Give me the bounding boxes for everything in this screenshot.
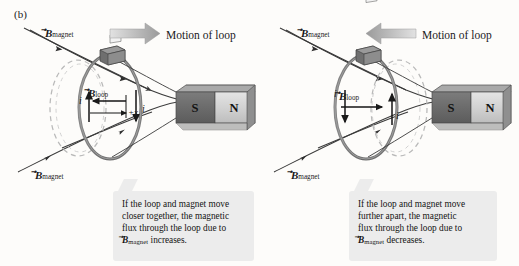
caption-line-2: further apart, the magnetic — [358, 210, 489, 222]
current-label-left-up: i — [79, 95, 82, 106]
x-axis-label-left: +x — [128, 107, 138, 117]
current-label-right-down: i — [334, 88, 337, 99]
current-label-right-up: i — [396, 110, 399, 121]
motion-arrow-right — [366, 23, 416, 44]
current-label-left-down: i — [142, 103, 145, 114]
b-loop-label-right: ⃗Bloop — [339, 86, 359, 104]
caption-line-3: flux through the loop due to — [122, 222, 246, 234]
caption-line-3: flux through the loop due to — [358, 222, 489, 234]
motion-label-left: Motion of loop — [166, 25, 236, 43]
caption-box-left: If the loop and magnet move closer toget… — [113, 191, 254, 261]
motion-label-right: Motion of loop — [422, 25, 492, 43]
b-loop-label-left: ⃗Bloop — [88, 83, 108, 101]
caption-box-right: If the loop and magnet move further apar… — [349, 191, 497, 261]
magnet-pole-north-right: N — [485, 101, 494, 115]
b-magnet-label-left-bottom: ⃗Bmagnet — [35, 165, 64, 183]
b-magnet-label-right-top: ⃗Bmagnet — [301, 23, 330, 41]
magnet-pole-south-left: S — [192, 101, 199, 115]
b-magnet-label-left-top: ⃗Bmagnet — [45, 23, 74, 41]
caption-line-4: ⃗Bmagnet increases. — [122, 234, 246, 247]
magnet-pole-north-left: N — [229, 101, 238, 115]
figure-container: (b) — [0, 0, 519, 266]
b-magnet-label-right-bottom: ⃗Bmagnet — [291, 165, 320, 183]
caption-line-1: If the loop and magnet move — [358, 198, 489, 210]
caption-line-1: If the loop and magnet move — [122, 198, 246, 210]
bar-magnet-left: S N — [176, 85, 255, 130]
caption-line-4: ⃗Bmagnet decreases. — [358, 234, 489, 247]
panel-left: S N — [18, 23, 255, 172]
bar-magnet-right: S N — [432, 85, 511, 130]
magnet-pole-south-right: S — [448, 101, 455, 115]
caption-line-2: closer together, the magnetic — [122, 210, 246, 222]
